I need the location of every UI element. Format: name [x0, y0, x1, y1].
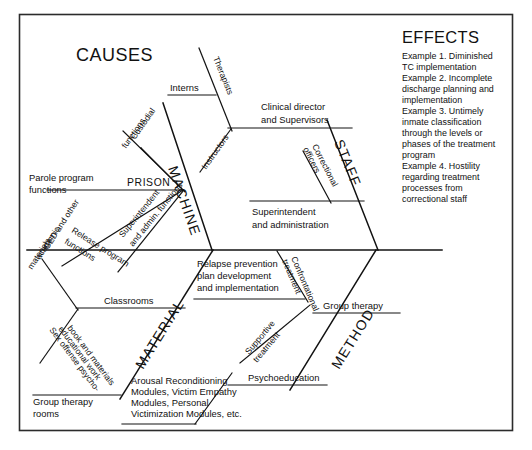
- method-item-relapse-2: plan development: [197, 270, 271, 281]
- effects-line-7: inmate classification: [402, 117, 481, 127]
- effects-line-13: processes from: [402, 183, 463, 193]
- machine-item-parole-2: functions: [29, 184, 67, 195]
- material-item-ged-3: materials: [25, 236, 52, 271]
- material-sub-ged: [42, 259, 78, 310]
- staff-item-therapists: Therapists: [211, 55, 235, 96]
- staff-item-clinical-1: Clinical director: [261, 101, 325, 112]
- effects-title: EFFECTS: [402, 28, 479, 46]
- material-item-grouptherapy-2: rooms: [33, 408, 59, 419]
- material-item-arousal-2: Modules, Victim Empathy: [131, 386, 237, 397]
- effects-line-3: Example 2. Incomplete: [402, 73, 492, 83]
- staff-item-instructors: Instructors: [199, 133, 230, 172]
- method-item-relapse-3: and implementation: [197, 282, 279, 293]
- fishbone-canvas: CAUSES EFFECTS Example 1. Diminished TC …: [0, 0, 532, 450]
- effects-line-14: correctional staff: [402, 194, 467, 204]
- effects-line-12: regarding treatment: [402, 172, 480, 182]
- material-item-grouptherapy-1: Group therapy: [33, 396, 93, 407]
- staff-item-superintendent-1: Superintendent: [252, 206, 316, 217]
- material-item-classrooms: Classrooms: [104, 295, 154, 306]
- material-item-arousal-4: Victimization Modules, etc.: [131, 408, 242, 419]
- fishbone-diagram: CAUSES EFFECTS Example 1. Diminished TC …: [0, 0, 532, 450]
- effects-line-10: program: [402, 150, 435, 160]
- method-item-grouptherapy: Group therapy: [323, 300, 383, 311]
- effects-line-4: discharge planning and: [402, 84, 494, 94]
- effects-line-1: Example 1. Diminished: [402, 51, 493, 61]
- effects-line-9: phases of the treatment: [402, 139, 496, 149]
- material-item-arousal-1: Arousal Reconditioning: [131, 375, 227, 386]
- method-item-relapse-1: Relapse prevention: [197, 258, 278, 269]
- causes-heading: CAUSES: [76, 45, 153, 65]
- effects-line-2: TC implementation: [402, 62, 477, 72]
- machine-item-parole-1: Parole program: [29, 172, 94, 183]
- staff-item-superintendent-2: and administration: [252, 219, 329, 230]
- staff-item-clinical-2: and Supervisors: [261, 114, 329, 125]
- effects-line-5: implementation: [402, 95, 462, 105]
- machine-node-prison-label: PRISON: [127, 177, 170, 188]
- method-item-psychoeducation: Psychoeducation: [248, 372, 319, 383]
- effects-line-6: Example 3. Untimely: [402, 106, 484, 116]
- material-item-arousal-3: Modules, Personal: [131, 397, 209, 408]
- staff-item-interns: Interns: [170, 82, 199, 93]
- effects-line-11: Example 4. Hostility: [402, 161, 480, 171]
- machine-item-custodial-2: functions: [119, 116, 147, 150]
- effects-line-8: through the levels or: [402, 128, 482, 138]
